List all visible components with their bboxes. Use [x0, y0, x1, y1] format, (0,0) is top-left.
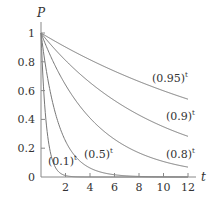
- curve-label-05: (0.5)t: [84, 147, 113, 161]
- y-tick-label: 0.6: [18, 85, 36, 98]
- curve-label-01: (0.1)t: [48, 154, 77, 168]
- exponential-decay-chart: 24681012 00.20.40.60.81 t P (0.95)t (0.9…: [0, 0, 219, 198]
- x-tick-label: 12: [181, 181, 195, 194]
- y-tick-label: 0.8: [18, 56, 36, 69]
- x-tick-label: 10: [157, 181, 171, 194]
- y-tick-label: 0.4: [18, 113, 36, 126]
- y-axis-label: P: [36, 6, 46, 20]
- y-tick-label: 0: [28, 171, 35, 184]
- x-tick-label: 2: [62, 181, 69, 194]
- y-tick-label: 1: [28, 27, 35, 40]
- y-tick-label: 0.2: [18, 142, 36, 155]
- x-tick-label: 4: [87, 181, 94, 194]
- curve-label-09: (0.9)t: [166, 109, 195, 123]
- curve-0: [41, 33, 188, 99]
- x-tick-label: 6: [111, 181, 118, 194]
- curve-label-08: (0.8)t: [166, 147, 195, 161]
- curve-label-095: (0.95)t: [152, 71, 188, 85]
- x-axis-label: t: [201, 170, 206, 184]
- x-tick-label: 8: [136, 181, 143, 194]
